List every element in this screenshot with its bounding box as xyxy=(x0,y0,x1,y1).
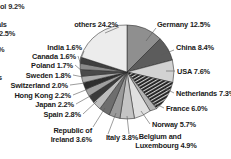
label-belgium-line1: Belgium and xyxy=(139,132,182,141)
label-switzerland: Switzerland 2.0% xyxy=(10,81,68,90)
clipped-line-5: s xyxy=(0,73,2,82)
clipped-line-3: 12.5% xyxy=(0,29,16,38)
clipped-line-1: col 9.2% xyxy=(0,2,25,11)
label-canada: Canada 1.6% xyxy=(32,52,77,61)
clipped-line-2: als xyxy=(0,20,7,29)
label-china: China 8.4% xyxy=(176,43,215,52)
label-ireland-line2: Ireland 3.6% xyxy=(51,135,93,144)
label-france: France 6.0% xyxy=(166,104,208,113)
label-spain: Spain 2.8% xyxy=(43,110,81,119)
label-hongkong: Hong Kong 2.2% xyxy=(14,91,71,100)
label-sweden: Sweden 1.8% xyxy=(26,71,72,80)
label-india: India 1.6% xyxy=(47,43,82,52)
label-poland: Poland 1.7% xyxy=(31,61,73,70)
label-netherlands: Netherlands 7.3% xyxy=(176,89,231,98)
label-belgium-line2: Luxembourg 4.9% xyxy=(135,141,197,150)
clipped-line-4: % xyxy=(0,45,5,54)
label-japan: Japan 2.2% xyxy=(35,100,74,109)
label-norway: Norway 5.7% xyxy=(152,120,197,129)
label-ireland-line1: Republic of xyxy=(53,126,92,135)
pie-chart-figure: col 9.2% als 12.5% % s xyxy=(0,0,231,159)
label-usa: USA 7.6% xyxy=(177,67,211,76)
label-germany: Germany 12.5% xyxy=(157,20,211,29)
label-others: others 24.2% xyxy=(74,20,118,29)
label-italy: Italy 3.8% xyxy=(106,133,139,142)
